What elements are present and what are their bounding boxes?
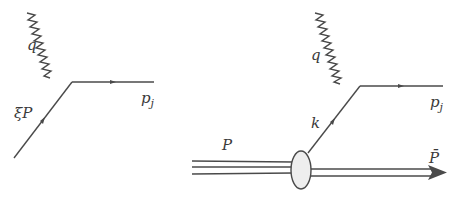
arrow-head-icon xyxy=(428,165,447,180)
right-diagram: q k pj P P̄ xyxy=(192,13,447,189)
label-xi-p: ξP xyxy=(14,104,33,122)
label-pj: pj xyxy=(141,89,155,110)
hadron-line-3 xyxy=(192,173,293,174)
hadron-line-1 xyxy=(192,161,293,162)
label-k: k xyxy=(311,114,320,132)
left-diagram: q ξP pj xyxy=(14,13,155,158)
feynman-diagrams: q ξP pj q k pj P P̄ xyxy=(0,0,464,202)
label-q: q xyxy=(311,46,321,64)
label-p-remnant: P̄ xyxy=(428,149,440,167)
arrow-icon xyxy=(110,80,116,84)
label-pj: pj xyxy=(430,93,444,114)
arrow-icon xyxy=(398,84,404,88)
label-p: P xyxy=(221,136,233,154)
label-q: q xyxy=(27,36,37,54)
hadron-blob xyxy=(291,151,311,189)
